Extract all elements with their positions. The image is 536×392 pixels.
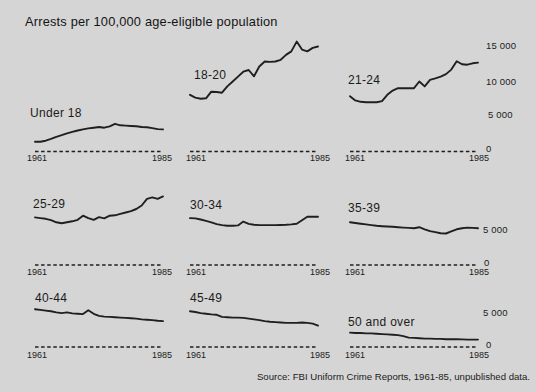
x-tick-end: 1985 <box>449 153 489 163</box>
y-tick-label: 10 000 <box>486 76 516 87</box>
panel-label-45-49: 45-49 <box>190 291 222 305</box>
x-tick-end: 1985 <box>132 153 172 163</box>
small-multiples-figure: Arrests per 100,000 age-eligible populat… <box>0 0 536 392</box>
plot-canvas <box>0 0 536 392</box>
panel-label-35-39: 35-39 <box>348 201 380 215</box>
x-tick-end: 1985 <box>290 153 330 163</box>
x-tick-end: 1985 <box>449 350 489 360</box>
series-line-50-and-over <box>350 333 478 340</box>
series-line-45-49 <box>190 311 318 325</box>
x-tick-end: 1985 <box>132 267 172 277</box>
y-tick-label: 0 <box>486 143 491 154</box>
x-tick-end: 1985 <box>290 350 330 360</box>
y-tick-label: 0 <box>486 339 491 350</box>
x-tick-end: 1985 <box>290 267 330 277</box>
panel-label-30-34: 30-34 <box>190 198 222 212</box>
panel-label-18-20: 18-20 <box>194 68 226 82</box>
panel-label-40-44: 40-44 <box>35 291 67 305</box>
panel-label-under-18: Under 18 <box>30 106 82 120</box>
series-line-35-39 <box>350 222 478 233</box>
x-tick-start: 1961 <box>27 153 47 163</box>
y-tick-label: 5 000 <box>483 307 508 318</box>
series-line-30-34 <box>190 217 318 226</box>
panel-label-50-and-over: 50 and over <box>348 315 415 329</box>
x-tick-start: 1961 <box>186 153 206 163</box>
x-tick-start: 1961 <box>27 350 47 360</box>
x-tick-start: 1961 <box>345 350 365 360</box>
panel-label-25-29: 25-29 <box>33 197 65 211</box>
x-tick-start: 1961 <box>345 267 365 277</box>
x-tick-end: 1985 <box>132 350 172 360</box>
y-tick-label: 0 <box>484 257 489 268</box>
y-tick-label: 15 000 <box>486 40 516 51</box>
panel-label-21-24: 21-24 <box>348 73 380 87</box>
x-tick-start: 1961 <box>186 350 206 360</box>
x-tick-start: 1961 <box>345 153 365 163</box>
x-tick-start: 1961 <box>186 267 206 277</box>
source-note: Source: FBI Uniform Crime Reports, 1961-… <box>257 371 530 382</box>
x-tick-end: 1985 <box>449 267 489 277</box>
series-line-40-44 <box>35 309 163 321</box>
series-line-under-18 <box>35 124 163 142</box>
y-tick-label: 5 000 <box>483 224 508 235</box>
x-tick-start: 1961 <box>27 267 47 277</box>
y-tick-label: 5 000 <box>488 109 513 120</box>
